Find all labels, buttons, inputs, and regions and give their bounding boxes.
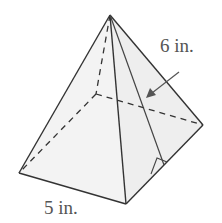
left-face bbox=[19, 15, 126, 204]
base-edge-label: 5 in. bbox=[44, 197, 78, 219]
slant-height-label: 6 in. bbox=[160, 35, 194, 57]
pyramid-diagram bbox=[0, 0, 222, 223]
